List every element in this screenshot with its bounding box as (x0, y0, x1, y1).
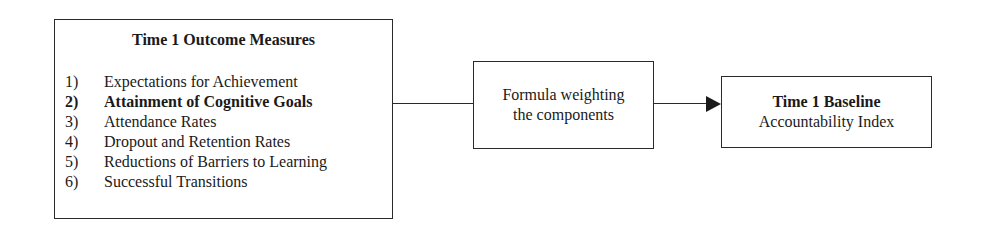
formula-line-2: the components (502, 105, 624, 125)
index-subtitle: Accountability Index (759, 112, 895, 132)
outcome-item-number: 5) (65, 152, 104, 172)
outcome-item: 1) Expectations for Achievement (65, 72, 327, 92)
outcome-measures-title: Time 1 Outcome Measures (55, 30, 392, 50)
outcome-item-label: Attainment of Cognitive Goals (104, 92, 312, 112)
outcome-item-label: Dropout and Retention Rates (104, 132, 290, 152)
outcome-item: 2) Attainment of Cognitive Goals (65, 92, 327, 112)
formula-box: Formula weighting the components (473, 61, 654, 149)
outcome-item-label: Attendance Rates (104, 112, 216, 132)
outcome-item-number: 2) (65, 92, 104, 112)
connector-line (393, 103, 473, 104)
outcome-item-number: 4) (65, 132, 104, 152)
outcome-item: 6) Successful Transitions (65, 172, 327, 192)
outcome-item-label: Reductions of Barriers to Learning (104, 152, 327, 172)
outcome-item-label: Successful Transitions (104, 172, 248, 192)
outcome-item-number: 1) (65, 72, 104, 92)
outcome-item: 5) Reductions of Barriers to Learning (65, 152, 327, 172)
outcome-measures-list: 1) Expectations for Achievement 2) Attai… (65, 72, 327, 192)
outcome-item: 4) Dropout and Retention Rates (65, 132, 327, 152)
outcome-item-number: 6) (65, 172, 104, 192)
accountability-index-box: Time 1 Baseline Accountability Index (721, 76, 932, 148)
outcome-item: 3) Attendance Rates (65, 112, 327, 132)
outcome-measures-box: Time 1 Outcome Measures 1) Expectations … (54, 19, 393, 219)
formula-line-1: Formula weighting (502, 85, 624, 105)
outcome-item-label: Expectations for Achievement (104, 72, 298, 92)
arrowhead-icon (706, 96, 721, 112)
arrow-line (654, 103, 708, 104)
formula-text: Formula weighting the components (502, 85, 624, 125)
index-title: Time 1 Baseline (772, 92, 880, 112)
outcome-item-number: 3) (65, 112, 104, 132)
